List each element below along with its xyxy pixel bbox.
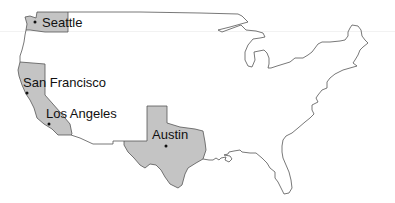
us-map xyxy=(0,0,395,203)
city-label-austin: Austin xyxy=(152,128,188,141)
city-marker-seattle xyxy=(34,21,37,24)
us-outline xyxy=(68,12,368,194)
west-coast-outline xyxy=(20,30,26,62)
city-label-seattle: Seattle xyxy=(42,16,82,29)
state-california xyxy=(18,62,72,135)
city-marker-los-angeles xyxy=(48,123,51,126)
city-label-san-francisco: San Francisco xyxy=(23,76,106,89)
city-marker-san-francisco xyxy=(26,92,29,95)
city-marker-austin xyxy=(165,145,168,148)
city-label-los-angeles: Los Angeles xyxy=(46,107,117,120)
southern-border-outline xyxy=(71,135,124,144)
